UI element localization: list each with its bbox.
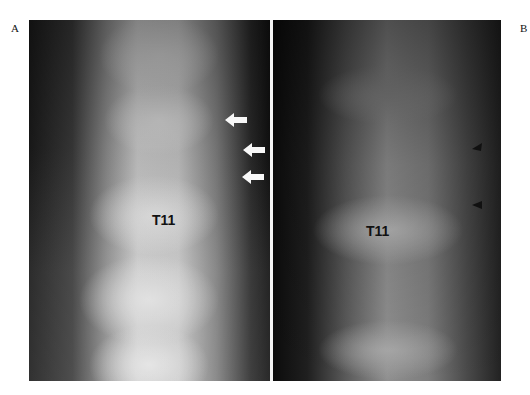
white-arrow-left-icon [242, 170, 264, 184]
panel-b-tomogram: T11 [273, 20, 501, 381]
white-arrow-left-icon [243, 143, 265, 157]
vertebra-label-t11: T11 [366, 223, 389, 239]
vertebra-label-t11: T11 [152, 212, 175, 228]
panel-b-letter: B [520, 22, 527, 34]
white-arrow-left-icon [225, 113, 247, 127]
black-arrowhead-left-icon [472, 143, 482, 151]
black-arrowhead-left-icon [472, 201, 482, 209]
panel-a-radiograph: T11 [29, 20, 270, 381]
panel-a-letter: A [11, 22, 19, 34]
